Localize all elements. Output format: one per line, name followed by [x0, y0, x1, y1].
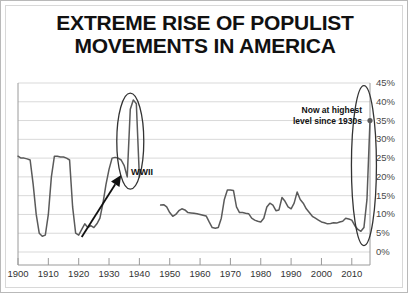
annotation-now-line-2: level since 1930s [293, 116, 362, 127]
y-axis-label: 20% [376, 171, 395, 182]
annotation-now-line-1: Now at highest [293, 105, 362, 116]
x-axis-label: 1980 [245, 268, 277, 279]
y-axis-label: 40% [376, 96, 395, 107]
x-axis-label: 1920 [63, 268, 95, 279]
x-axis-label: 1940 [123, 268, 155, 279]
x-axis-label: 1930 [93, 268, 125, 279]
x-axis-label: 2000 [305, 268, 337, 279]
x-axis-label: 1960 [184, 268, 216, 279]
y-axis-label: 25% [376, 152, 395, 163]
y-axis-label: 30% [376, 133, 395, 144]
x-tick-marks [18, 258, 352, 265]
chart-plot [1, 1, 408, 293]
y-axis-label: 5% [376, 227, 390, 238]
x-axis-label: 1950 [154, 268, 186, 279]
y-axis-label: 0% [376, 246, 390, 257]
annotation-now-at-highest: Now at highest level since 1930s [293, 105, 362, 126]
x-axis-label: 1970 [214, 268, 246, 279]
x-axis-label: 1910 [32, 268, 64, 279]
x-axis-label: 1900 [2, 268, 34, 279]
wwii-arrow [82, 175, 121, 237]
chart-figure: EXTREME RISE OF POPULIST MOVEMENTS IN AM… [0, 0, 408, 293]
y-axis-label: 35% [376, 115, 395, 126]
y-axis-label: 15% [376, 190, 395, 201]
x-axis-label: 2010 [336, 268, 368, 279]
annotation-wwii: WWII [131, 167, 153, 178]
x-axis-label: 1990 [275, 268, 307, 279]
y-axis-label: 45% [376, 77, 395, 88]
y-axis-label: 10% [376, 208, 395, 219]
data-markers [367, 118, 372, 123]
